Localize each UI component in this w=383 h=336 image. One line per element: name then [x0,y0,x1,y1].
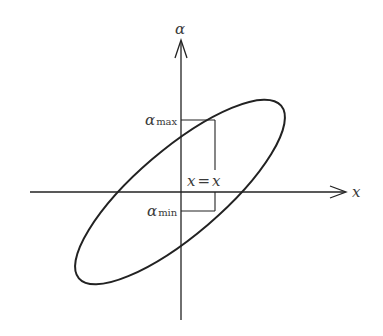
alpha-max-label: αmax [145,111,178,129]
ellipse-diagram: α x αmax αmin x=x [0,0,383,336]
x-axis-label: x [352,183,361,201]
y-axis-label: α [175,20,185,38]
alpha-min-label: αmin [147,202,178,220]
center-label: x=x [187,172,221,190]
